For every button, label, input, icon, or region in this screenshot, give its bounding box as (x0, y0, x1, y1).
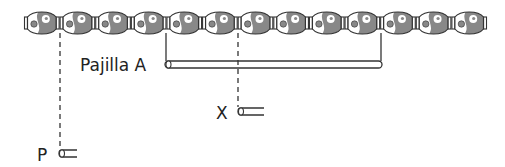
bead-shade (37, 11, 58, 35)
bead (416, 11, 451, 35)
bead-dot (351, 21, 357, 27)
bead-eye-pupil (330, 17, 333, 20)
bead (131, 11, 166, 35)
bead-shade (464, 11, 485, 35)
bead-eye-pupil (223, 17, 226, 20)
bead-dot (173, 21, 179, 27)
bead-eye-pupil (401, 17, 404, 20)
bead-shade (286, 11, 307, 35)
straw-x-opening (239, 108, 244, 115)
bead-dot (244, 21, 250, 27)
bead-dot (423, 21, 429, 27)
bead-dot (66, 21, 72, 27)
bead-shade (215, 11, 236, 35)
bead-shade (251, 11, 272, 35)
bead-shade (393, 11, 414, 35)
straw-x-label: X (216, 103, 228, 123)
bead (274, 11, 309, 35)
bead-eye-pupil (294, 17, 297, 20)
bead (452, 11, 487, 35)
bead-dot (387, 21, 393, 27)
bead-eye-pupil (116, 17, 119, 20)
bead-eye-pupil (258, 17, 261, 20)
bead-measurement-diagram: Pajilla A X P (0, 0, 505, 167)
bead-chain (25, 11, 487, 35)
bead-shade (179, 11, 200, 35)
bead (60, 11, 95, 35)
bead (25, 11, 60, 35)
bead-eye-pupil (45, 17, 48, 20)
bead-dot (316, 21, 322, 27)
bead (381, 11, 416, 35)
straw-p-opening (60, 150, 65, 157)
bead-shade (322, 11, 343, 35)
bead-shade (144, 11, 165, 35)
bead (203, 11, 238, 35)
bead-dot (138, 21, 144, 27)
bead (345, 11, 380, 35)
straw-a-label: Pajilla A (80, 55, 147, 75)
straw-x-group: X (216, 33, 264, 123)
bead-dot (31, 21, 37, 27)
bead-eye-pupil (187, 17, 190, 20)
bead-shade (357, 11, 378, 35)
bead (238, 11, 273, 35)
bead-eye-pupil (472, 17, 475, 20)
bead-dot (458, 21, 464, 27)
bead-eye-pupil (152, 17, 155, 20)
straw-a-group: Pajilla A (80, 33, 382, 75)
bead-shade (429, 11, 450, 35)
bead-dot (280, 21, 286, 27)
straw-a-opening (166, 61, 171, 68)
bead (167, 11, 202, 35)
bead-shade (108, 11, 129, 35)
bead (96, 11, 131, 35)
bead-shade (72, 11, 93, 35)
straw-p-group: P (37, 33, 77, 165)
bead-eye-pupil (436, 17, 439, 20)
straw-p-label: P (37, 145, 47, 165)
straw-a (165, 61, 382, 68)
bead-dot (209, 21, 215, 27)
bead-eye-pupil (80, 17, 83, 20)
bead-dot (102, 21, 108, 27)
bead-eye-pupil (365, 17, 368, 20)
bead (309, 11, 344, 35)
